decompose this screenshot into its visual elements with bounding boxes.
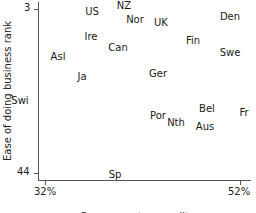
x-tick-label-min: 32%	[34, 186, 56, 197]
x-axis-title: Government expenditures	[80, 211, 211, 213]
x-axis-line	[38, 180, 251, 181]
data-point-label: Ire	[85, 32, 98, 42]
y-axis-line	[38, 2, 39, 181]
data-point-label: Por	[150, 111, 166, 121]
scatter-chart: 3 44 32% 52% Ease of doing business rank…	[0, 0, 256, 213]
x-tick-max	[240, 181, 241, 185]
data-point-label: Swi	[11, 96, 28, 106]
data-point-label: Sp	[109, 170, 122, 180]
y-tick-label-bottom: 44	[17, 166, 30, 177]
data-point-label: NZ	[117, 1, 131, 11]
y-axis-title: Ease of doing business rank	[2, 21, 13, 161]
y-tick-label-top: 3	[24, 2, 30, 13]
data-point-label: Swe	[220, 48, 241, 58]
y-tick-bottom	[34, 173, 38, 174]
data-point-label: Can	[108, 43, 127, 53]
data-point-label: Fr	[239, 108, 248, 118]
data-point-label: US	[85, 7, 99, 17]
x-tick-label-max: 52%	[228, 186, 250, 197]
data-point-label: Nth	[167, 118, 185, 128]
data-point-label: Ger	[149, 69, 167, 79]
x-tick-min	[45, 181, 46, 185]
data-point-label: Den	[220, 12, 240, 22]
data-point-label: Nor	[126, 15, 144, 25]
data-point-label: Aus	[196, 122, 214, 132]
data-point-label: UK	[154, 18, 168, 28]
data-point-label: Fin	[186, 36, 200, 46]
data-point-label: Asl	[51, 52, 66, 62]
data-point-label: Ja	[77, 72, 86, 82]
data-point-label: Bel	[199, 104, 215, 114]
y-tick-top	[34, 9, 38, 10]
